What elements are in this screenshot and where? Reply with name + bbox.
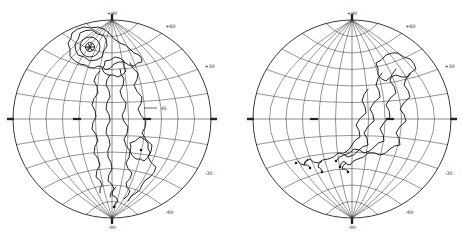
contour-end-dot [339,166,342,169]
rim-label: -60 [166,210,174,215]
contour-end-dot [295,162,298,165]
contour-end-dot [321,171,324,174]
right-hemisphere: +90+60+30-30-60-90 [247,11,457,230]
left-hemisphere: +90+60+30-30-60-9045 [7,11,217,230]
contour-end-dot [140,149,143,152]
contour-line [106,75,114,197]
rim-label: +60 [406,24,416,29]
contour-end-dot [335,160,338,163]
rim-label: +30 [205,64,215,69]
contour-end-dot [347,171,350,174]
figure-container: +90+60+30-30-60-9045+90+60+30-30-60-90 [0,0,463,237]
contour-end-dot [113,206,116,209]
contour-line [120,69,132,199]
rim-label: +90 [347,11,357,16]
rim-label: -60 [406,210,414,215]
contour-value-label: 45 [161,106,167,111]
rim-label: -90 [348,225,356,230]
rim-label: -30 [205,171,213,176]
contour-closed [102,57,126,77]
contour-line [336,69,396,161]
rim-label: -90 [108,225,116,230]
contour-end-dot [309,167,312,170]
stereonet-figure: +90+60+30-30-60-9045+90+60+30-30-60-90 [0,0,463,237]
contour-line [344,89,368,153]
rim-label: +60 [166,24,176,29]
rim-label: -30 [445,171,453,176]
rim-label: +30 [445,64,455,69]
contour-line [112,187,118,207]
rim-label: +90 [107,11,117,16]
